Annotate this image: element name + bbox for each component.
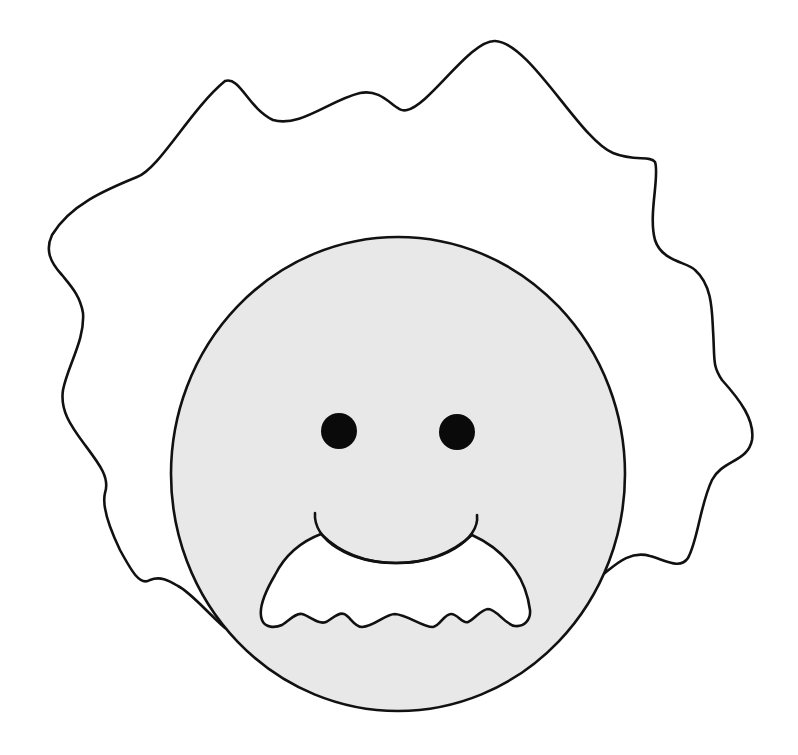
right-eye xyxy=(439,414,475,450)
left-eye xyxy=(321,413,357,449)
face xyxy=(171,237,625,711)
illustration-svg xyxy=(0,0,798,755)
cartoon-face-illustration xyxy=(0,0,798,755)
